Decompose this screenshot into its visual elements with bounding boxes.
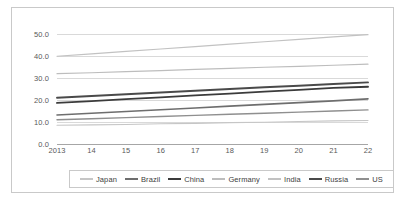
legend-item-brazil[interactable]: Brazil <box>125 175 160 184</box>
y-tick-label: 50.0 <box>34 30 49 39</box>
series-lines <box>57 27 368 144</box>
x-tick-label: 15 <box>122 146 131 155</box>
x-tick-label: 20 <box>295 146 304 155</box>
series-line-russia <box>57 82 368 97</box>
legend-swatch-icon <box>80 178 93 179</box>
legend-swatch-icon <box>268 178 281 179</box>
y-tick-label: 30.0 <box>34 74 49 83</box>
legend-swatch-icon <box>212 178 225 179</box>
y-tick-label: 10.0 <box>34 118 49 127</box>
legend-label: Japan <box>96 175 117 184</box>
legend-swatch-icon <box>125 178 138 180</box>
x-axis-line <box>57 144 368 145</box>
legend-label: Russia <box>325 175 349 184</box>
x-tick-label: 17 <box>191 146 200 155</box>
chart-frame: 0.010.020.030.040.050.0 2013141516171819… <box>11 7 394 193</box>
series-line-germany <box>57 64 368 73</box>
x-tick-label: 19 <box>260 146 269 155</box>
y-axis: 0.010.020.030.040.050.0 <box>12 27 53 144</box>
legend-swatch-icon <box>309 178 322 180</box>
legend-swatch-icon <box>168 178 181 180</box>
legend-label: US <box>372 175 383 184</box>
legend-item-russia[interactable]: Russia <box>309 175 349 184</box>
plot-area <box>57 27 368 144</box>
y-tick-label: 40.0 <box>34 52 49 61</box>
y-tick-label: 20.0 <box>34 96 49 105</box>
legend-label: Germany <box>228 175 260 184</box>
legend-label: India <box>284 175 301 184</box>
series-line-japan <box>57 120 368 125</box>
y-tick-label: 0.0 <box>38 140 49 149</box>
x-tick-label: 14 <box>87 146 96 155</box>
legend-item-china[interactable]: China <box>168 175 204 184</box>
chart-legend: JapanBrazilChinaGermanyIndiaRussiaUS <box>69 170 394 188</box>
legend-item-india[interactable]: India <box>268 175 301 184</box>
x-tick-label: 16 <box>156 146 165 155</box>
legend-label: China <box>184 175 204 184</box>
legend-item-us[interactable]: US <box>356 175 383 184</box>
x-tick-label: 22 <box>364 146 373 155</box>
x-tick-label: 2013 <box>48 146 65 155</box>
legend-swatch-icon <box>356 178 369 179</box>
legend-item-germany[interactable]: Germany <box>212 175 260 184</box>
legend-item-japan[interactable]: Japan <box>80 175 117 184</box>
x-tick-label: 18 <box>225 146 234 155</box>
x-tick-label: 21 <box>329 146 338 155</box>
x-axis: 2013141516171819202122 <box>57 146 368 160</box>
legend-label: Brazil <box>141 175 160 184</box>
series-line-us <box>57 110 368 120</box>
series-line-india <box>57 35 368 57</box>
